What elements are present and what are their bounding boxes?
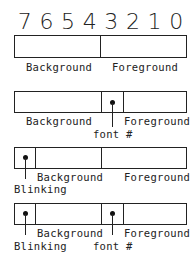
font-pointer-line [112, 103, 113, 127]
nibble-divider [101, 147, 102, 169]
blinking-label: Blinking [14, 240, 67, 252]
background-label: Background [26, 61, 92, 73]
blink-bit-divider [35, 147, 36, 169]
bit-6: 6 [36, 10, 58, 34]
font-bit-divider [123, 91, 124, 113]
nibble-divider [101, 91, 102, 113]
background-label: Background [37, 171, 103, 183]
blink-pointer-line [25, 214, 26, 235]
foreground-label: Foreground [124, 115, 190, 127]
blinking-label: Blinking [14, 183, 67, 195]
background-label: Background [37, 227, 103, 239]
background-label: Background [26, 115, 92, 127]
bit-4: 4 [79, 10, 101, 34]
foreground-label: Foreground [124, 171, 190, 183]
font-bit-divider [123, 203, 124, 225]
nibble-divider [101, 203, 102, 225]
foreground-label: Foreground [112, 61, 178, 73]
bit-number-header: 7 6 5 4 3 2 1 0 [14, 10, 187, 34]
nibble-divider [100, 35, 101, 58]
bit-5: 5 [57, 10, 79, 34]
blink-pointer-line [25, 158, 26, 179]
bit-7: 7 [14, 10, 36, 34]
font-label: font # [93, 240, 133, 252]
bit-2: 2 [122, 10, 144, 34]
bit-0: 0 [165, 10, 187, 34]
bit-1: 1 [144, 10, 166, 34]
bit-3: 3 [101, 10, 123, 34]
blink-bit-divider [35, 203, 36, 225]
font-label: font # [93, 128, 133, 140]
foreground-label: Foreground [124, 227, 190, 239]
font-pointer-line [112, 214, 113, 235]
